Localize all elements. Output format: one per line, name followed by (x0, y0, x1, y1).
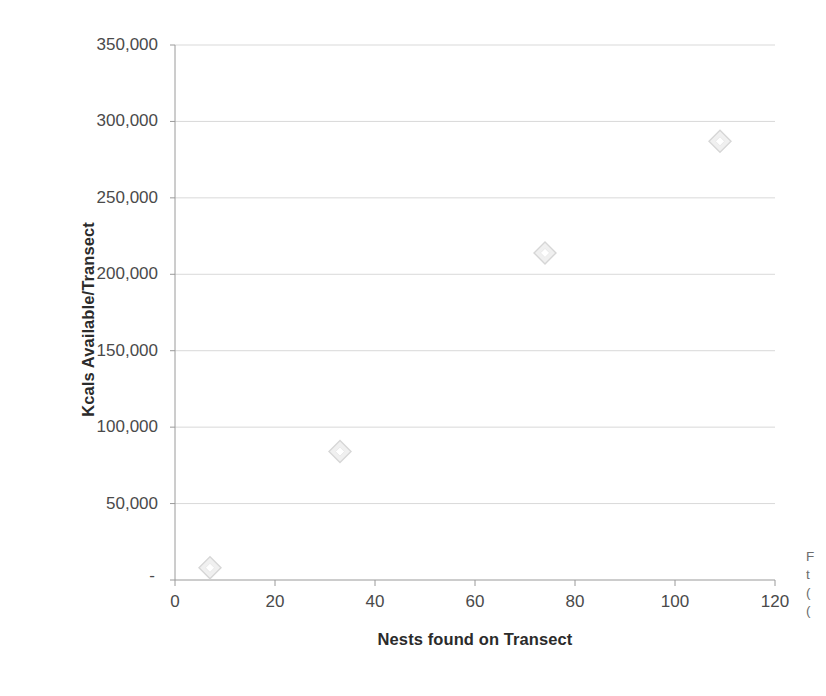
x-axis-tick-label: 20 (245, 593, 305, 610)
caption-line: F (806, 548, 826, 566)
y-axis-title: Kcals Available/Transect (79, 170, 98, 470)
caption-line: t (806, 566, 826, 584)
x-axis-tick-label: 0 (145, 593, 205, 610)
caption-line: ( (806, 584, 826, 602)
clipped-side-caption: Ft(( (806, 548, 826, 620)
x-axis-tick-label: 40 (345, 593, 405, 610)
x-axis-tick-label: 60 (445, 593, 505, 610)
scatter-chart-figure: -50,000100,000150,000200,000250,000300,0… (0, 0, 826, 696)
caption-line: ( (806, 602, 826, 620)
x-axis-tick-labels: 020406080100120 (0, 0, 826, 696)
x-axis-title: Nests found on Transect (175, 630, 775, 649)
x-axis-tick-label: 120 (745, 593, 805, 610)
x-axis-tick-label: 100 (645, 593, 705, 610)
x-axis-tick-label: 80 (545, 593, 605, 610)
